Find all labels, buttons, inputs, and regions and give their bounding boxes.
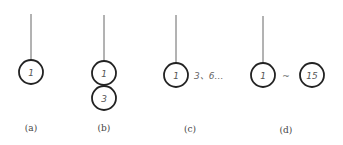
diagram-canvas: 1 (a) 1 3 (b) 1 3、6… (c) 1 ~ 15 (d) [0,0,343,145]
node-label: 3 [101,94,107,104]
node-label: 15 [306,71,318,81]
panel-caption: (c) [184,124,196,134]
panel-caption: (d) [280,125,293,135]
panel-c: 1 3、6… (c) [164,15,223,134]
node-label: 1 [28,68,34,78]
node-label: 1 [101,69,107,79]
panel-caption: (b) [98,123,111,133]
node-label: 1 [173,71,179,81]
range-connector: ~ [282,71,290,81]
node-label: 1 [260,71,266,81]
sequence-label: 3、6… [194,71,223,81]
panel-b: 1 3 (b) [92,15,116,133]
panel-d: 1 ~ 15 (d) [251,16,324,135]
panel-a: 1 (a) [19,14,43,133]
panel-caption: (a) [25,123,37,133]
